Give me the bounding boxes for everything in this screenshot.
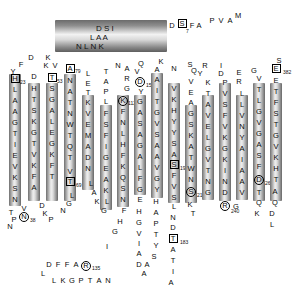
residue-number: 23 <box>20 80 26 85</box>
helix-8-residue: G <box>136 142 145 150</box>
bottom-loop-residue: T <box>86 277 95 285</box>
helix-4-residue: V <box>66 168 75 176</box>
helix-11-residue: W <box>187 165 196 173</box>
bottom-loop-residue: F <box>54 261 63 269</box>
helix-16-residue: Q <box>271 199 280 207</box>
helix-3-residue: V <box>51 62 60 70</box>
helix-7-residue: S <box>119 185 128 193</box>
helix-12-residue: V <box>204 112 213 120</box>
helix-5-residue: L <box>84 70 93 78</box>
helix-12-residue: K <box>204 79 213 87</box>
helix-12-residue: L <box>204 134 213 142</box>
helix-2-residue: H <box>30 85 39 93</box>
helix-1-residue: S <box>11 185 20 193</box>
helix-6-residue: I <box>102 143 111 151</box>
helix-10-residue: T <box>169 257 178 265</box>
helix-11-residue: T <box>189 210 198 218</box>
helix-9-residue: G <box>153 109 162 117</box>
helix-6-residue: F <box>102 110 111 118</box>
helix-5-residue: E <box>84 121 93 129</box>
helix-9-residue: T <box>153 98 162 106</box>
helix-6-residue: T <box>102 68 111 76</box>
helix-7-residue: N <box>119 196 128 204</box>
helix-2-residue: K <box>30 118 39 126</box>
helix-2-residue: S <box>30 107 39 115</box>
helix-5-residue: V <box>84 110 93 118</box>
residue-number: 79 <box>75 69 81 74</box>
helix-7-residue: N <box>119 119 128 127</box>
helix-10-residue: Y <box>170 118 179 126</box>
helix-9-residue: Y <box>153 186 162 194</box>
helix-10-residue: N <box>170 65 179 73</box>
helix-7-residue: I <box>103 243 112 251</box>
helix-11-residue: K <box>187 132 196 140</box>
helix-15-residue: K <box>253 210 262 218</box>
helix-8-residue: A <box>136 153 145 161</box>
helix-9-residue: T <box>152 231 161 239</box>
helix-16-residue: S <box>272 110 281 118</box>
residue-box-marker <box>66 177 75 186</box>
helix-4-residue: T <box>66 99 75 107</box>
helix-14-residue: V <box>238 189 247 197</box>
helix-10-residue: H <box>170 107 179 115</box>
helix-2-residue: F <box>30 173 39 181</box>
residue-number: 183 <box>180 240 188 245</box>
helix-9-residue: A <box>153 66 162 74</box>
amphipathic-helix-row: N L N K <box>76 42 104 51</box>
helix-3-residue: E <box>48 129 57 137</box>
helix-15-residue: G <box>255 108 264 116</box>
helix-8-residue: A <box>135 250 144 258</box>
helix-9-residue: A <box>153 142 162 150</box>
helix-4-residue: T <box>66 132 75 140</box>
helix-7-residue: F <box>119 108 128 116</box>
helix-6-residue: F <box>102 132 111 140</box>
helix-9-residue: I <box>153 87 162 95</box>
helix-13-residue: K <box>221 156 230 164</box>
free-residue-label: V <box>217 17 226 25</box>
residue-circle-marker <box>81 261 91 271</box>
helix-14-residue: A <box>238 145 247 153</box>
helix-3-residue: K <box>42 62 51 70</box>
helix-13-residue: V <box>221 123 230 131</box>
helix-3-residue: K <box>48 151 57 159</box>
helix-12-residue: Y <box>196 70 205 78</box>
helix-9-residue: S <box>153 131 162 139</box>
helix-7-residue: L <box>119 130 128 138</box>
helix-5-residue: L <box>87 180 96 188</box>
helix-7-residue: Q <box>119 174 128 182</box>
helix-13-residue: N <box>221 178 230 186</box>
helix-2-residue: T <box>30 140 39 148</box>
helix-2-residue: A <box>30 184 39 192</box>
helix-9-residue: V <box>153 120 162 128</box>
bottom-loop-residue: D <box>45 261 54 269</box>
residue-circle-marker <box>135 77 145 87</box>
helix-7-residue: R <box>123 75 132 83</box>
helix-7-residue: H <box>116 218 125 226</box>
helix-14-residue: I <box>238 156 247 164</box>
helix-3-residue: S <box>48 85 57 93</box>
helix-9-residue: A <box>152 209 161 217</box>
residue-number: 38 <box>30 218 36 223</box>
helix-8-residue: G <box>136 186 145 194</box>
helix-1-residue: K <box>11 174 20 182</box>
bottom-loop-residue: A <box>95 277 104 285</box>
helix-2-residue: T <box>30 96 39 104</box>
helix-5-residue: A <box>84 143 93 151</box>
bottom-loop-residue: K <box>59 277 68 285</box>
helix-14-residue: V <box>238 112 247 120</box>
helix-13-residue: G <box>221 145 230 153</box>
helix-14-residue: R <box>235 78 244 86</box>
helix-9-residue: G <box>153 175 162 183</box>
helix-1-residue: V <box>11 163 20 171</box>
helix-9-residue: V <box>153 164 162 172</box>
helix-10-residue: V <box>170 183 179 191</box>
helix-16-residue: A <box>271 188 280 196</box>
helix-14-residue: E <box>235 69 244 77</box>
residue-number: 7 <box>186 29 189 34</box>
helix-15-residue: G <box>255 130 264 138</box>
helix-11-residue: E <box>187 89 196 97</box>
helix-15-residue: L <box>255 97 264 105</box>
helix-4-residue: N <box>66 77 75 85</box>
helix-12-residue: G <box>204 145 213 153</box>
helix-11-residue: G <box>187 110 196 118</box>
